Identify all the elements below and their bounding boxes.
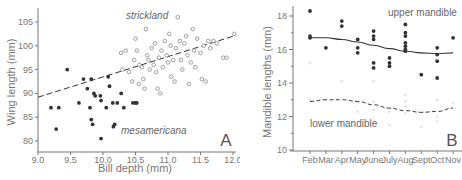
upper-mandible-marker: [356, 51, 360, 55]
upper-mandible-marker: [435, 59, 439, 63]
chart-b-panel-label: B: [446, 131, 457, 150]
month-label: June: [364, 155, 384, 165]
faint-marker: [404, 112, 407, 115]
faint-marker: [356, 110, 359, 113]
month-label: Oct: [430, 155, 445, 165]
upper-mandible-marker: [356, 46, 360, 50]
upper-mandible-marker: [372, 29, 376, 33]
upper-mandible-marker: [435, 53, 439, 57]
month-label: Apr: [335, 155, 349, 165]
upper-mandible-marker: [404, 31, 408, 35]
chart-b-lower-mandible-label: lower mandible: [310, 118, 378, 129]
month-label: Nov: [445, 155, 462, 165]
chart-b-mandible-by-month: 1012141618 FebMarAprMayJuneJulyAugSeptOc…: [0, 0, 462, 180]
month-label: Sept: [412, 155, 431, 165]
faint-marker: [452, 102, 455, 105]
chart-b-x-ticks: FebMarAprMayJuneJulyAugSeptOctNov: [302, 151, 461, 165]
upper-mandible-marker: [388, 56, 392, 60]
upper-mandible-marker: [435, 76, 439, 80]
y-tick-label: 18: [277, 11, 287, 21]
upper-mandible-marker: [340, 19, 344, 23]
upper-mandible-marker: [404, 34, 408, 38]
faint-marker: [436, 98, 439, 101]
faint-marker: [309, 98, 312, 101]
upper-mandible-marker: [372, 61, 376, 65]
upper-mandible-marker: [356, 38, 360, 42]
y-tick-label: 14: [277, 78, 287, 88]
faint-marker: [420, 125, 423, 128]
month-label: Mar: [318, 155, 334, 165]
upper-mandible-marker: [404, 22, 408, 26]
chart-b-upper-mandible-label: upper mandible: [388, 7, 457, 18]
lower-mandible-trendline: [310, 100, 453, 113]
upper-mandible-marker: [324, 46, 328, 50]
upper-mandible-marker: [372, 34, 376, 38]
faint-marker: [372, 108, 375, 111]
upper-mandible-marker: [404, 49, 408, 53]
faint-marker: [356, 102, 359, 105]
month-label: Feb: [302, 155, 318, 165]
chart-b-upper-mandible-points: [308, 9, 455, 80]
upper-mandible-marker: [435, 46, 439, 50]
faint-marker: [388, 110, 391, 113]
upper-mandible-trendline: [310, 38, 453, 54]
faint-marker: [388, 123, 391, 126]
faint-marker: [372, 80, 375, 83]
chart-b-y-label: Mandible lengths (mm): [261, 26, 273, 138]
faint-marker: [340, 80, 343, 83]
faint-marker: [404, 100, 407, 103]
month-label: Aug: [397, 155, 413, 165]
upper-mandible-marker: [308, 36, 312, 40]
faint-marker: [404, 93, 407, 96]
faint-marker: [436, 115, 439, 118]
faint-marker: [309, 61, 312, 64]
month-label: July: [381, 155, 398, 165]
upper-mandible-marker: [451, 36, 455, 40]
y-tick-label: 12: [277, 112, 287, 122]
upper-mandible-marker: [340, 24, 344, 28]
chart-b-trendlines: [310, 38, 453, 113]
upper-mandible-marker: [388, 64, 392, 68]
y-tick-label: 16: [277, 45, 287, 55]
upper-mandible-marker: [404, 41, 408, 45]
faint-marker: [436, 120, 439, 123]
upper-mandible-marker: [404, 44, 408, 48]
upper-mandible-marker: [419, 73, 423, 77]
chart-b-y-ticks: 1012141618: [277, 11, 293, 155]
upper-mandible-marker: [372, 38, 376, 42]
upper-mandible-marker: [388, 61, 392, 65]
upper-mandible-marker: [308, 9, 312, 13]
faint-marker: [372, 100, 375, 103]
faint-marker: [404, 105, 407, 108]
upper-mandible-marker: [372, 66, 376, 70]
y-tick-label: 10: [277, 145, 287, 155]
